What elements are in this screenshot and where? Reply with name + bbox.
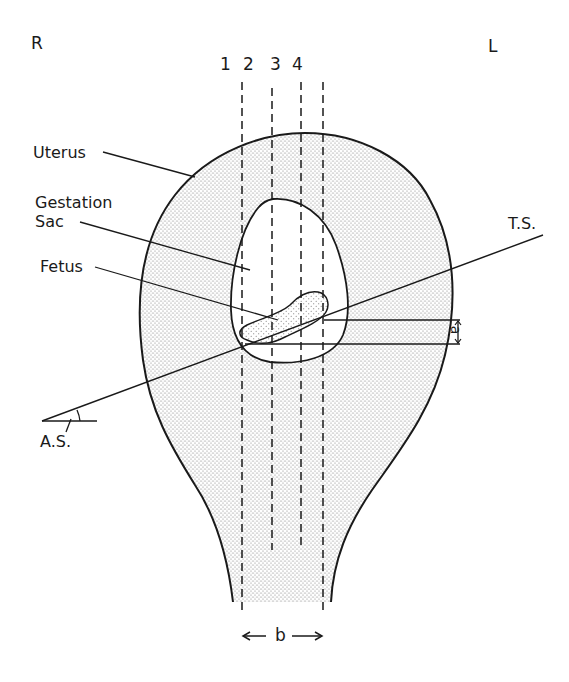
right-side-label: R <box>31 35 43 52</box>
uterus-label: Uterus <box>33 145 86 161</box>
scan-plane-2-label: 2 <box>243 56 254 73</box>
fetus-label: Fetus <box>40 259 83 275</box>
gestation-sac-label: Gestation Sac <box>35 193 112 231</box>
transverse-section-label: T.S. <box>508 216 536 232</box>
scan-plane-4-label: 4 <box>292 56 303 73</box>
uterus-leader-line <box>103 152 195 177</box>
left-side-label: L <box>488 38 497 55</box>
angle-arc <box>77 410 80 421</box>
angle-section-label: A.S. <box>40 434 71 450</box>
scan-plane-3-label: 3 <box>270 56 281 73</box>
scan-plane-1-label: 1 <box>220 56 231 73</box>
dimension-b-label: b <box>275 627 286 644</box>
uterus-diagram <box>0 0 569 682</box>
dimension-a-label: a <box>449 326 463 335</box>
